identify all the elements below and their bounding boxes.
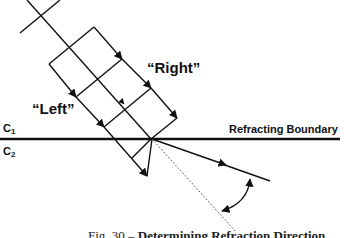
wavefront-4b xyxy=(151,118,177,139)
medium-c1-sub: 1 xyxy=(11,127,15,136)
caption-prefix: Fig. 30 – xyxy=(88,228,135,238)
right-ray-seg3 xyxy=(151,88,177,118)
wavefront-2 xyxy=(76,59,122,97)
undeviated-path xyxy=(152,139,236,232)
left-ray-seg1 xyxy=(49,64,76,97)
refracted-ray xyxy=(152,139,226,165)
medium-c2-label: C2 xyxy=(3,145,15,159)
left-ray-seg2 xyxy=(76,97,104,127)
medium-c1-label: C1 xyxy=(3,122,15,136)
left-ray-seg3 xyxy=(104,127,147,176)
refracted-ray-ext xyxy=(222,164,270,181)
medium-c1-text: C xyxy=(3,122,11,134)
medium-c2-sub: 2 xyxy=(11,150,15,159)
refraction-diagram xyxy=(0,0,344,238)
refracting-boundary-label: Refracting Boundary xyxy=(229,123,338,135)
refracted-wavefront xyxy=(147,139,152,176)
wavefront-4 xyxy=(132,139,151,158)
right-label: “Right” xyxy=(147,59,200,76)
left-label: “Left” xyxy=(32,100,75,117)
right-ray-seg1 xyxy=(94,27,122,59)
center-ray-seg1 xyxy=(49,14,76,42)
angle-arc xyxy=(222,179,250,211)
figure-caption: Fig. 30 – Determining Refraction Directi… xyxy=(88,228,325,238)
medium-c2-text: C xyxy=(3,145,11,157)
wavefront-top xyxy=(20,0,60,33)
caption-title: Determining Refraction Direction xyxy=(138,228,325,238)
